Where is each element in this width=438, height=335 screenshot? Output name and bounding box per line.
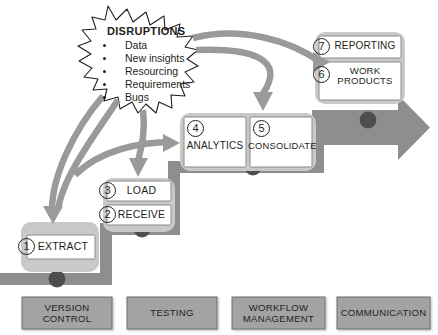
bullet-dot-0 bbox=[103, 44, 106, 47]
step-label-work-products[interactable]: WORK PRODUCTS bbox=[332, 66, 398, 87]
step-number-6: 6 bbox=[313, 66, 330, 83]
disruption-item-2: Resourcing bbox=[125, 65, 178, 77]
step-number-5: 5 bbox=[253, 120, 270, 137]
foundation-label-testing[interactable]: TESTING bbox=[127, 297, 217, 329]
step-label-load[interactable]: LOAD bbox=[114, 185, 169, 196]
bullet-dot-1 bbox=[103, 57, 106, 60]
arrowhead-consolidate bbox=[253, 92, 273, 111]
foundation-3-line-1: COMMUNICATION bbox=[341, 307, 427, 318]
foundation-label-workflow-management[interactable]: WORKFLOW MANAGEMENT bbox=[232, 297, 325, 329]
foundation-1-line-1: TESTING bbox=[150, 307, 193, 318]
stair-dot-4 bbox=[360, 112, 377, 129]
step-label-analytics[interactable]: ANALYTICS bbox=[184, 141, 246, 152]
arrow-to-consolidate bbox=[196, 50, 270, 95]
foundation-0-line-2: CONTROL bbox=[43, 313, 92, 324]
arrowhead-hook bbox=[163, 134, 180, 152]
foundation-2-line-1: WORKFLOW bbox=[249, 302, 309, 313]
step-number-7: 7 bbox=[313, 38, 330, 55]
stair-dot-1 bbox=[49, 271, 66, 288]
step-number-4: 4 bbox=[187, 120, 204, 137]
foundation-0-line-1: VERSION bbox=[45, 302, 90, 313]
diagram-canvas: DISRUPTIONS Data New insights Resourcing… bbox=[0, 0, 438, 335]
arrowhead-load bbox=[129, 158, 148, 177]
work-products-line-1: WORK bbox=[350, 65, 381, 76]
step-label-reporting[interactable]: REPORTING bbox=[330, 41, 400, 52]
bullet-dot-3 bbox=[103, 83, 106, 86]
arrowhead-extract bbox=[43, 206, 63, 224]
arrow-to-load bbox=[138, 110, 144, 162]
disruption-item-3: Requirements bbox=[125, 78, 190, 90]
foundation-label-version-control[interactable]: VERSION CONTROL bbox=[22, 297, 112, 329]
work-products-line-2: PRODUCTS bbox=[337, 75, 392, 86]
disruptions-title: DISRUPTIONS bbox=[107, 25, 185, 37]
disruption-item-0: Data bbox=[125, 39, 147, 51]
step-label-receive[interactable]: RECEIVE bbox=[114, 209, 169, 220]
bullet-dot-4 bbox=[103, 96, 106, 99]
foundation-2-line-2: MANAGEMENT bbox=[243, 313, 314, 324]
step-label-extract[interactable]: EXTRACT bbox=[33, 241, 93, 252]
disruption-item-4: Bugs bbox=[125, 91, 149, 103]
step-label-consolidate[interactable]: CONSOLIDATE bbox=[248, 141, 314, 151]
foundation-label-communication[interactable]: COMMUNICATION bbox=[337, 297, 430, 329]
disruption-item-1: New insights bbox=[125, 52, 185, 64]
bullet-dot-2 bbox=[103, 70, 106, 73]
